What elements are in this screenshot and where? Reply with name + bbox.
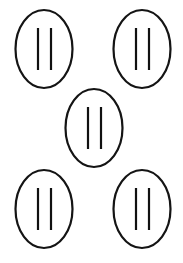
cell-center (66, 89, 123, 167)
ellipse-outline-bottom-left (16, 170, 73, 248)
cell-top-right (114, 10, 171, 88)
cell-bottom-right (114, 170, 171, 248)
ellipse-pattern-figure (0, 0, 183, 263)
ellipse-outline-top-right (114, 10, 171, 88)
figure-canvas (0, 0, 183, 263)
ellipse-outline-center (66, 89, 123, 167)
cell-bottom-left (16, 170, 73, 248)
ellipse-outline-bottom-right (114, 170, 171, 248)
cell-top-left (16, 10, 73, 88)
ellipse-outline-top-left (16, 10, 73, 88)
